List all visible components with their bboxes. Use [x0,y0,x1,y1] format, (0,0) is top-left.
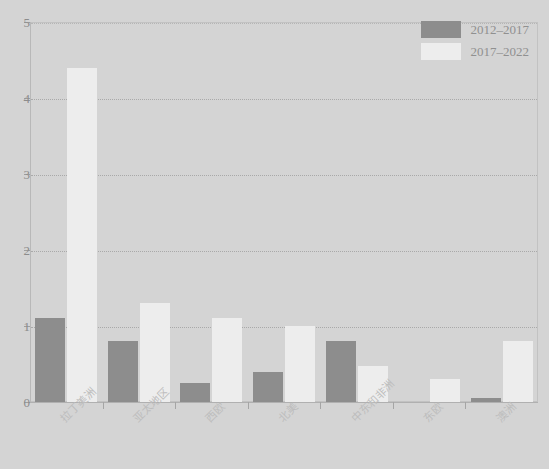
x-tick-mark [465,402,466,409]
bar [326,341,356,402]
legend-swatch-icon [421,21,461,38]
x-tick-mark [320,402,321,409]
y-tick-label: 1 [6,320,30,333]
legend-item-label: 2017–2022 [471,45,530,58]
x-tick-mark [103,402,104,409]
y-tick-label: 5 [6,16,30,29]
y-axis-ticks: 012345 [0,0,30,469]
x-tick-mark [393,402,394,409]
y-axis [30,22,31,402]
legend-swatch-icon [421,43,461,60]
bars-group [30,22,538,402]
bar [212,318,242,402]
y-tick-label: 0 [6,396,30,409]
x-tick-mark [175,402,176,409]
bar [35,318,65,402]
bar [180,383,210,402]
bar-chart: 012345 拉丁美洲亚太地区西欧北美中东和非洲东欧澳洲 2012–2017 2… [0,0,549,469]
y-tick-label: 2 [6,244,30,257]
x-tick-mark [248,402,249,409]
bar [67,68,97,402]
legend-item-2012-2017[interactable]: 2012–2017 [421,18,530,40]
bar [285,326,315,402]
bar [503,341,533,402]
bar [253,372,283,402]
y-tick-label: 3 [6,168,30,181]
y-tick-label: 4 [6,92,30,105]
chart-legend: 2012–2017 2017–2022 [415,14,536,66]
legend-item-2017-2022[interactable]: 2017–2022 [421,40,530,62]
legend-item-label: 2012–2017 [471,23,530,36]
bar [108,341,138,402]
